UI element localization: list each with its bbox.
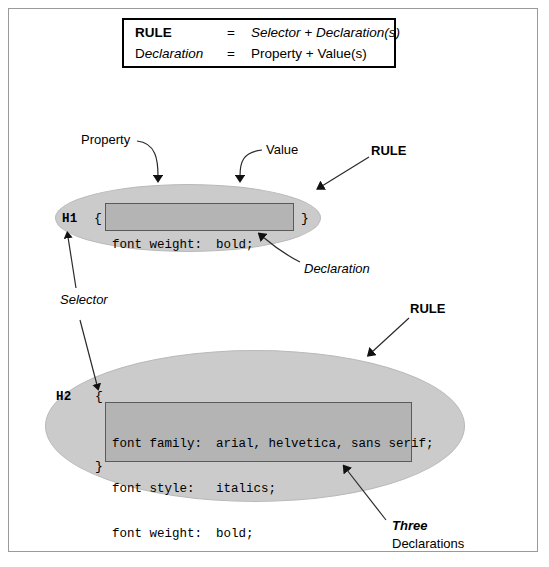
diagram-canvas: RULE = Selector + Declaration(s) Declara… — [0, 0, 549, 567]
annotation-property: Property — [81, 132, 130, 147]
legend-definition-rule: Selector + Declaration(s) — [251, 22, 400, 44]
annotation-rule-top: RULE — [371, 143, 406, 158]
declaration-value: bold; — [216, 238, 254, 252]
declaration-value: italics; — [216, 482, 276, 496]
legend-row-rule: RULE = Selector + Declaration(s) — [124, 22, 394, 44]
declaration-value: bold; — [216, 527, 254, 541]
declaration-line: font style:italics; — [112, 481, 411, 498]
declaration-line: font weight:bold; — [112, 237, 293, 254]
annotation-declaration: Declaration — [304, 261, 370, 276]
declaration-property: font weight: — [112, 526, 216, 543]
legend-term-declaration-cap: D — [135, 46, 145, 61]
declaration-box-h1: font weight:bold; — [105, 203, 294, 231]
legend-row-declaration: Declaration = Property + Value(s) — [124, 43, 394, 65]
definition-legend-box: RULE = Selector + Declaration(s) Declara… — [122, 18, 396, 68]
legend-term-declaration: Declaration — [135, 43, 203, 65]
annotation-rule-bottom: RULE — [410, 301, 445, 316]
declaration-box-h2: font family:arial, helvetica, sans serif… — [105, 402, 412, 462]
selector-h1: H1 — [62, 212, 78, 226]
brace-close-h1: } — [301, 211, 309, 226]
legend-term-declaration-rest: eclaration — [145, 46, 204, 61]
brace-open-h2: { — [95, 389, 103, 404]
brace-close-h2: } — [95, 459, 103, 474]
annotation-value: Value — [266, 142, 298, 157]
legend-term-rule: RULE — [135, 22, 172, 44]
annotation-declarations: Declarations — [392, 536, 464, 551]
declaration-value: arial, helvetica, sans serif; — [216, 437, 434, 451]
legend-equals-2: = — [227, 43, 235, 65]
brace-open-h1: { — [94, 211, 102, 226]
legend-definition-declaration: Property + Value(s) — [251, 43, 367, 65]
declaration-property: font weight: — [112, 237, 216, 254]
declaration-line: font family:arial, helvetica, sans serif… — [112, 436, 411, 453]
declaration-property: font style: — [112, 481, 216, 498]
legend-equals-1: = — [227, 22, 235, 44]
declaration-line: font weight:bold; — [112, 526, 411, 543]
annotation-selector: Selector — [60, 292, 108, 307]
annotation-three: Three — [392, 518, 427, 533]
declaration-property: font family: — [112, 436, 216, 453]
selector-h2: H2 — [56, 390, 72, 404]
